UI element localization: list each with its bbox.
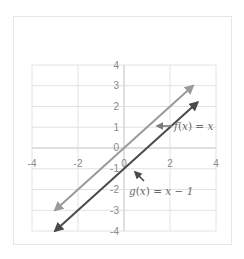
y-tick: -4 <box>110 226 119 237</box>
x-tick: -2 <box>74 158 83 169</box>
x-tick: 4 <box>213 158 219 169</box>
y-tick: 0 <box>113 142 119 153</box>
chart-svg: 4 3 2 1 0 -1 -2 -3 -4 -4 -2 0 2 4 f(x) =… <box>0 0 244 259</box>
y-tick: 2 <box>113 101 119 112</box>
x-tick: -4 <box>28 158 37 169</box>
x-tick-labels: -4 -2 0 2 4 <box>28 158 220 169</box>
y-tick: 3 <box>113 80 119 91</box>
label-f: f(x) = x <box>173 120 214 132</box>
x-tick: 2 <box>167 158 173 169</box>
label-g: g(x) = x − 1 <box>129 185 193 197</box>
y-tick: 1 <box>113 122 119 133</box>
y-tick: 4 <box>113 60 119 71</box>
annotation-arrow-g <box>135 172 144 181</box>
y-tick: -2 <box>110 184 119 195</box>
y-tick: -1 <box>110 163 119 174</box>
y-tick: -3 <box>110 205 119 216</box>
